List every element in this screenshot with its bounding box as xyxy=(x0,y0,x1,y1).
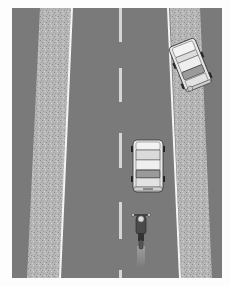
road-scene xyxy=(0,0,230,286)
car-in-right-lane xyxy=(131,140,165,192)
